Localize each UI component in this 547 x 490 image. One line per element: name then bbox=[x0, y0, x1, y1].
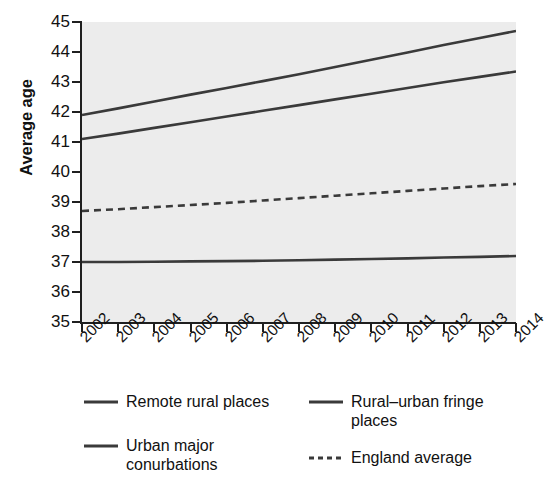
y-tick-label-39: 39 bbox=[40, 193, 70, 210]
y-tick-43 bbox=[72, 81, 81, 83]
y-tick-label-wrap: 35 bbox=[32, 313, 70, 330]
y-tick-45 bbox=[72, 21, 81, 23]
legend-label-england-average: England average bbox=[351, 448, 472, 467]
legend-swatch-solid-icon bbox=[308, 392, 344, 409]
x-tick-label-2014: 2014 bbox=[511, 310, 546, 345]
y-tick-44 bbox=[72, 51, 81, 53]
y-tick-37 bbox=[72, 261, 81, 263]
legend-label-rural-urban-fringe-places: Rural–urban fringe places bbox=[351, 392, 526, 430]
y-tick-label-wrap: 37 bbox=[32, 253, 70, 270]
y-tick-label-44: 44 bbox=[40, 43, 70, 60]
y-tick-label-wrap: 44 bbox=[32, 43, 70, 60]
y-tick-41 bbox=[72, 141, 81, 143]
legend-label-urban-major-conurbations: Urban major conurbations bbox=[126, 436, 301, 474]
legend-item-england-average[interactable]: England average bbox=[308, 448, 472, 467]
y-tick-36 bbox=[72, 291, 81, 293]
y-tick-label-wrap: 36 bbox=[32, 283, 70, 300]
y-tick-39 bbox=[72, 201, 81, 203]
series-lines bbox=[82, 22, 516, 322]
y-tick-35 bbox=[72, 321, 81, 323]
legend-swatch-solid-icon bbox=[83, 392, 119, 409]
y-tick-38 bbox=[72, 231, 81, 233]
y-tick-label-wrap: 43 bbox=[32, 73, 70, 90]
y-tick-label-38: 38 bbox=[40, 223, 70, 240]
y-tick-label-wrap: 39 bbox=[32, 193, 70, 210]
y-tick-label-wrap: 42 bbox=[32, 103, 70, 120]
legend-swatch-solid-icon bbox=[83, 436, 119, 453]
y-tick-label-35: 35 bbox=[40, 313, 70, 330]
legend-item-rural-urban-fringe-places[interactable]: Rural–urban fringe places bbox=[308, 392, 526, 430]
series-line-remote-rural-places bbox=[82, 31, 516, 115]
chart-legend: Remote rural placesRural–urban fringe pl… bbox=[80, 392, 535, 484]
series-line-urban-major-conurbations bbox=[82, 256, 516, 262]
legend-swatch-dashed-icon bbox=[308, 448, 344, 465]
y-tick-label-41: 41 bbox=[40, 133, 70, 150]
legend-item-urban-major-conurbations[interactable]: Urban major conurbations bbox=[83, 436, 301, 474]
legend-label-remote-rural-places: Remote rural places bbox=[126, 392, 269, 411]
y-tick-label-36: 36 bbox=[40, 283, 70, 300]
y-tick-label-wrap: 40 bbox=[32, 163, 70, 180]
y-tick-label-45: 45 bbox=[40, 13, 70, 30]
y-tick-label-wrap: 45 bbox=[32, 13, 70, 30]
y-tick-40 bbox=[72, 171, 81, 173]
series-line-rural-urban-fringe-places bbox=[82, 72, 516, 140]
y-tick-label-wrap: 41 bbox=[32, 133, 70, 150]
y-tick-label-42: 42 bbox=[40, 103, 70, 120]
y-tick-label-43: 43 bbox=[40, 73, 70, 90]
y-tick-42 bbox=[72, 111, 81, 113]
y-tick-label-wrap: 38 bbox=[32, 223, 70, 240]
series-line-england-average bbox=[82, 184, 516, 211]
y-tick-label-40: 40 bbox=[40, 163, 70, 180]
y-tick-label-37: 37 bbox=[40, 253, 70, 270]
legend-item-remote-rural-places[interactable]: Remote rural places bbox=[83, 392, 269, 411]
